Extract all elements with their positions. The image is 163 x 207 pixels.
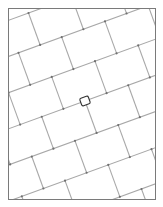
grid-joint-dot [29, 84, 31, 86]
grid-joint-dot [51, 76, 53, 78]
grid-joint-dot [21, 195, 23, 197]
grid-joint-dot [19, 124, 21, 126]
grid-joint-dot [52, 148, 54, 150]
grid-joint-dot [94, 60, 96, 62]
grid-joint-dot [119, 196, 121, 198]
grid-joint-dot [104, 20, 106, 22]
grid-joint-dot [106, 92, 108, 94]
grid-line-short-7-4 [98, 205, 110, 207]
grid-joint-dot [6, 20, 8, 22]
grid-line-short-5-2 [161, 109, 163, 141]
grid-joint-dot [64, 180, 66, 182]
grid-joint-dot [139, 116, 141, 118]
grid-joint-dot [74, 140, 76, 142]
grid-joint-dot [137, 44, 139, 46]
grid-joint-dot [96, 132, 98, 134]
grid-joint-dot [82, 28, 84, 30]
diagram-root [0, 0, 163, 207]
grid-joint-dot [127, 84, 129, 86]
grid-joint-dot [117, 124, 119, 126]
grid-joint-dot [149, 76, 151, 78]
grid-joint-dot [27, 12, 29, 14]
grid-joint-dot [86, 172, 88, 174]
grid-joint-dot [72, 68, 74, 70]
grid-joint-dot [41, 116, 43, 118]
grid-joint-dot [140, 188, 142, 190]
tile-grid-canvas[interactable] [0, 0, 163, 207]
grid-joint-dot [9, 163, 11, 165]
grid-line-short-0-5 [0, 0, 7, 21]
grid-joint-dot [31, 155, 33, 157]
grid-joint-dot [107, 164, 109, 166]
grid-joint-dot [42, 187, 44, 189]
grid-joint-dot [17, 52, 19, 54]
grid-joint-dot [125, 12, 127, 14]
grid-joint-dot [39, 44, 41, 46]
grid-joint-dot [150, 148, 152, 150]
grid-line-short-0-4 [38, 0, 50, 5]
grid-joint-dot [62, 108, 64, 110]
grid-joint-dot [116, 52, 118, 54]
grid-joint-dot [129, 156, 131, 158]
grid-joint-dot [61, 36, 63, 38]
